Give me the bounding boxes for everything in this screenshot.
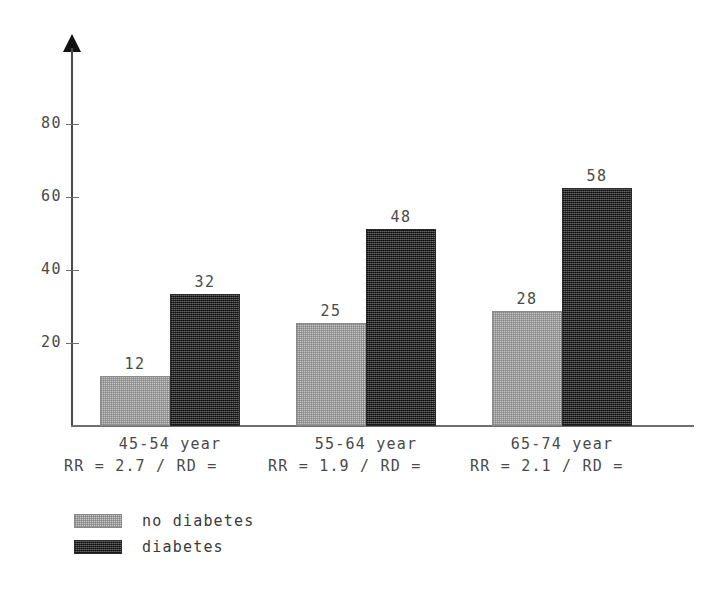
light-hatch-swatch-icon [74,514,122,528]
stats-label-45-54: RR = 2.7 / RD = [64,458,217,475]
bar-chart: 20 40 60 80 12 32 25 48 28 58 45-54 year… [0,0,709,592]
legend-label-diabetes: diabetes [142,540,224,555]
legend: no diabetes diabetes [74,508,255,560]
dark-hatch-swatch-icon [74,540,122,554]
stats-clip-region: RR = 2.7 / RD = RR = 1.9 / RD = RR = 2.1… [0,0,709,592]
legend-item-no-diabetes: no diabetes [74,508,255,534]
legend-label-no-diabetes: no diabetes [142,514,255,529]
stats-label-65-74: RR = 2.1 / RD = [470,458,623,475]
stats-label-55-64: RR = 1.9 / RD = [268,458,421,475]
legend-item-diabetes: diabetes [74,534,255,560]
